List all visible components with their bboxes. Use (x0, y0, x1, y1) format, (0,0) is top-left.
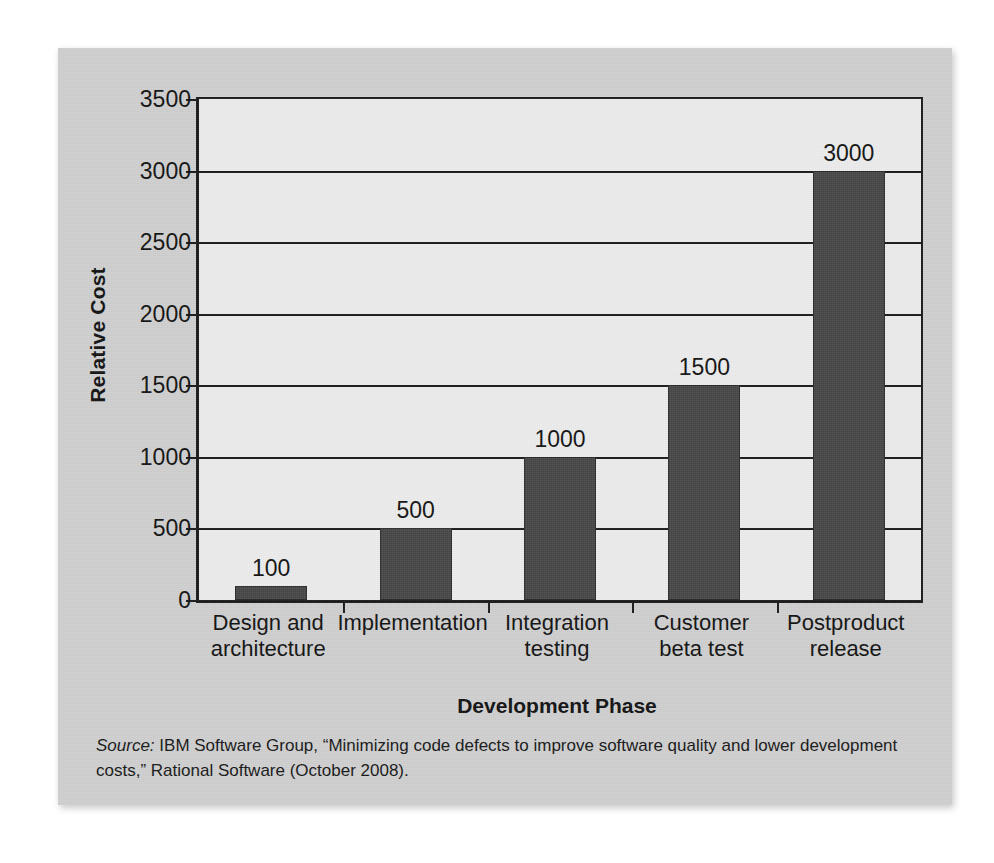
y-tick-label: 2500 (140, 229, 191, 256)
bar-value-label: 1000 (534, 426, 585, 453)
category-label: Design andarchitecture (186, 610, 350, 661)
bar: 100 (235, 586, 307, 600)
y-axis-title: Relative Cost (86, 225, 110, 445)
category-label-line: beta test (619, 636, 783, 662)
category-label: Postproductrelease (764, 610, 928, 661)
source-note: Source: IBM Software Group, “Minimizing … (96, 734, 916, 783)
category-label: Integrationtesting (475, 610, 639, 661)
y-tick-label: 1500 (140, 372, 191, 399)
bar-chart: Relative Cost 05001000150020002500300035… (58, 48, 952, 708)
category-label: Customerbeta test (619, 610, 783, 661)
bar-value-label: 100 (252, 555, 290, 582)
bar-value-label: 3000 (823, 140, 874, 167)
category-label-line: release (764, 636, 928, 662)
category-label-line: testing (475, 636, 639, 662)
y-tick-label: 2000 (140, 300, 191, 327)
category-label-line: Postproduct (764, 610, 928, 636)
source-label: Source: (96, 736, 155, 755)
x-axis-title: Development Phase (196, 694, 918, 718)
category-label-line: Design and (186, 610, 350, 636)
category-label-line: Customer (619, 610, 783, 636)
category-label: Implementation (330, 610, 494, 636)
bar: 500 (380, 528, 452, 600)
y-tick-label: 500 (153, 515, 191, 542)
source-text: IBM Software Group, “Minimizing code def… (96, 736, 897, 780)
bar: 1500 (668, 385, 740, 600)
bar-value-label: 500 (396, 497, 434, 524)
category-label-line: Implementation (330, 610, 494, 636)
bar: 1000 (524, 457, 596, 600)
plot-area: 0500100015002000250030003500 10050010001… (196, 97, 923, 603)
bar: 3000 (813, 171, 885, 600)
bar-value-label: 1500 (679, 354, 730, 381)
y-tick-label: 3500 (140, 86, 191, 113)
figure-panel: Relative Cost 05001000150020002500300035… (58, 48, 952, 805)
y-tick-label: 1000 (140, 443, 191, 470)
category-label-line: Integration (475, 610, 639, 636)
y-tick-label: 3000 (140, 157, 191, 184)
category-label-line: architecture (186, 636, 350, 662)
